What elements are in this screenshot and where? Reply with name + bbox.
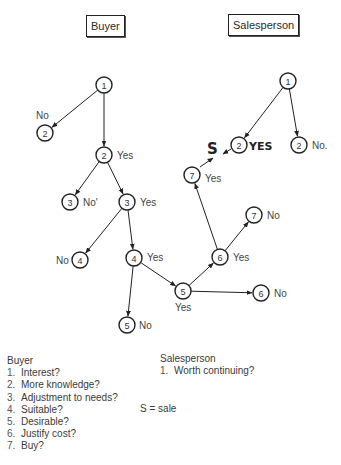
sale-arrow-to-s <box>223 149 231 154</box>
node-answer-label: Yes <box>205 173 221 184</box>
edge-s1-s2y <box>244 87 283 138</box>
node-number: 6 <box>217 253 222 263</box>
node-number: 5 <box>180 287 185 297</box>
legend-item-number: 1. <box>160 365 174 377</box>
node-b5y: 5Yes <box>175 283 191 313</box>
node-b6y: 6Yes <box>212 249 249 265</box>
node-s2n: 2No. <box>291 137 328 153</box>
node-number: 2 <box>101 151 106 161</box>
node-number: 2 <box>236 141 241 151</box>
node-answer-label: No <box>274 288 287 299</box>
buyer-legend: Buyer 1.Interest?2.More knowledge?3.Adju… <box>7 355 118 453</box>
salesperson-legend-title: Salesperson <box>160 353 254 365</box>
legend-item: 7.Buy? <box>7 440 118 452</box>
buyer-legend-title: Buyer <box>7 355 118 367</box>
edge-b4y-b5n <box>128 266 133 316</box>
node-answer-label: No' <box>83 197 98 208</box>
node-s2y: 2 <box>231 137 247 153</box>
node-answer-label: No <box>139 320 152 331</box>
node-number: 1 <box>101 81 106 91</box>
legend-item-text: Buy? <box>21 440 44 451</box>
node-b3y: 3Yes <box>119 194 156 210</box>
legend-item: 5.Desirable? <box>7 416 118 428</box>
legend-item: 4.Suitable? <box>7 404 118 416</box>
node-number: 6 <box>258 289 263 299</box>
node-b3n: 3No' <box>62 194 98 210</box>
nodes-layer: 12No2Yes3No'3Yes4No4Yes5Yes5No6Yes6No7Ye… <box>36 73 328 333</box>
node-answer-label: No <box>267 210 280 221</box>
node-number: 5 <box>124 321 129 331</box>
legend-item-number: 5. <box>7 416 21 428</box>
edge-b4y-b5y <box>141 262 176 286</box>
sale-arrow <box>200 158 213 167</box>
legend-item-number: 4. <box>7 404 21 416</box>
node-b1: 1 <box>96 77 112 93</box>
legend-item-text: Suitable? <box>21 404 63 415</box>
node-b4n: 4No <box>56 252 88 268</box>
edge-s1-s2n <box>289 89 297 136</box>
salesperson-legend: Salesperson 1.Worth continuing? <box>160 353 254 377</box>
legend-item-text: Desirable? <box>21 416 69 427</box>
node-answer-label: No <box>36 110 49 121</box>
edge-b3y-b4n <box>86 208 122 253</box>
node-answer-label: Yes <box>140 197 156 208</box>
node-answer-label: No. <box>312 140 328 151</box>
node-b6n: 6No <box>253 285 287 301</box>
node-b4y: 4Yes <box>126 250 163 266</box>
edge-b6y-b7n <box>225 222 248 251</box>
legend-item-text: Worth continuing? <box>174 365 254 376</box>
edge-b5y-b6n <box>191 291 252 293</box>
legend-item-number: 2. <box>7 379 21 391</box>
legend-item-text: Adjustment to needs? <box>21 392 118 403</box>
legend-item: 1.Interest? <box>7 367 118 379</box>
legend-item: 6.Justify cost? <box>7 428 118 440</box>
node-b7y: 7Yes <box>184 167 221 184</box>
node-b7n: 7No <box>246 207 280 223</box>
edge-b2y-b3y <box>108 162 124 194</box>
edge-b3y-b4y <box>128 210 133 249</box>
node-number: 3 <box>124 198 129 208</box>
node-number: 4 <box>131 254 136 264</box>
legend-item-number: 3. <box>7 392 21 404</box>
node-answer-label: Yes <box>147 252 163 263</box>
legend-item-number: 6. <box>7 428 21 440</box>
node-number: 2 <box>42 129 47 139</box>
legend-item: 2.More knowledge? <box>7 379 118 391</box>
legend-item-text: Interest? <box>21 367 60 378</box>
sale-key: S = sale <box>140 403 176 415</box>
node-answer-label: No <box>56 255 69 266</box>
node-answer-label: Yes <box>175 302 191 313</box>
sale-key-text: S = sale <box>140 403 176 415</box>
node-number: 7 <box>251 211 256 221</box>
node-answer-label: Yes <box>233 252 249 263</box>
node-answer-label: Yes <box>117 150 133 161</box>
node-number: 1 <box>285 77 290 87</box>
node-s1: 1 <box>280 73 296 89</box>
node-number: 3 <box>67 198 72 208</box>
node-b2n: 2No <box>36 110 53 141</box>
edge-b6y-b7y <box>195 184 218 250</box>
edge-b2y-b3n <box>75 161 99 194</box>
legend-item-text: Justify cost? <box>21 428 76 439</box>
legend-item-number: 7. <box>7 440 21 452</box>
legend-item: 1.Worth continuing? <box>160 365 254 377</box>
legend-item-text: More knowledge? <box>21 379 100 390</box>
sale-yes-label: YES <box>248 140 272 153</box>
node-number: 4 <box>77 256 82 266</box>
node-b5n: 5No <box>119 317 152 333</box>
edge-b1-b2n <box>52 90 98 127</box>
node-number: 7 <box>189 171 194 181</box>
sale-s-label: S <box>207 140 218 158</box>
node-b2y: 2Yes <box>96 147 133 163</box>
edge-b5y-b6y <box>189 263 213 285</box>
node-number: 2 <box>296 141 301 151</box>
legend-item: 3.Adjustment to needs? <box>7 392 118 404</box>
legend-item-number: 1. <box>7 367 21 379</box>
